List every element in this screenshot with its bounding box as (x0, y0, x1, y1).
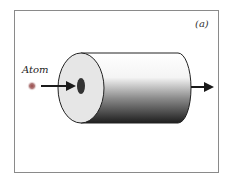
cylinder (58, 53, 191, 123)
entrance-hole (77, 78, 85, 94)
atom-label: Atom (22, 64, 49, 75)
atom-icon (27, 81, 37, 91)
panel-label: (a) (195, 18, 209, 29)
